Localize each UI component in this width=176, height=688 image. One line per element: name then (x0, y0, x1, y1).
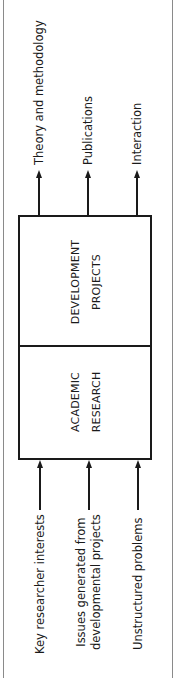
academic-research-box: ACADEMIC RESEARCH (18, 345, 152, 460)
output-label-interaction: Interaction (130, 103, 145, 165)
input-label-key-interests: Key researcher interests (33, 514, 48, 654)
input-label-issues: Issues generated from developmental proj… (74, 514, 104, 650)
input-label-unstructured: Unstructured problems (131, 518, 146, 650)
frame-right-line (172, 0, 173, 678)
development-projects-box: DEVELOPMENT PROJECTS (18, 215, 152, 348)
academic-research-label: ACADEMIC RESEARCH (65, 372, 107, 433)
development-projects-label: DEVELOPMENT PROJECTS (65, 240, 107, 325)
output-label-publications: Publications (81, 96, 96, 165)
frame-left-line (3, 0, 4, 678)
output-label-theory: Theory and methodology (32, 20, 47, 165)
